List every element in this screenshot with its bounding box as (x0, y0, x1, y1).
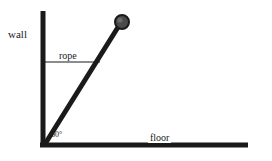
ball-highlight-icon (117, 17, 122, 22)
angle-label: 60° (51, 131, 62, 139)
physics-diagram: wall rope floor 60° (0, 0, 272, 161)
floor-label: floor (148, 133, 171, 143)
ball-shape (115, 15, 129, 29)
rope-label: rope (57, 51, 79, 61)
wall-label: wall (8, 29, 27, 40)
diagram-canvas (0, 0, 272, 161)
rod-line (45, 24, 120, 144)
